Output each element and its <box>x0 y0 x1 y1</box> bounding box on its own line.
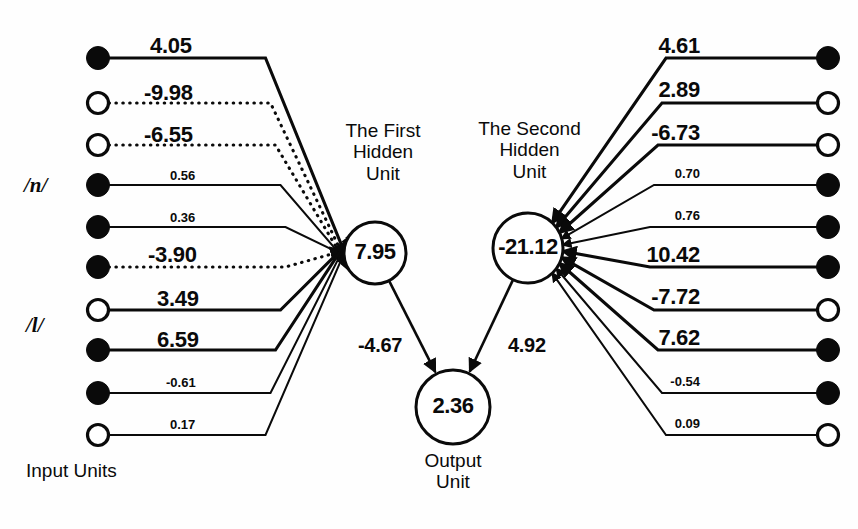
left-input-node-2[interactable] <box>88 135 109 156</box>
right-weight-label-3: 0.70 <box>590 166 700 181</box>
left-connection-6 <box>109 245 346 310</box>
first-hidden-unit-caption: The First Hidden Unit <box>327 120 439 184</box>
right-node-group <box>817 47 840 446</box>
second-hidden-to-output-edge <box>470 280 513 372</box>
right-input-node-3[interactable] <box>817 174 840 197</box>
left-connection-3 <box>109 185 346 261</box>
left-connection-2 <box>109 145 347 266</box>
left-connection-5 <box>109 250 345 267</box>
right-weight-label-6: -7.72 <box>590 284 700 310</box>
left-weight-label-6: 3.49 <box>157 286 199 312</box>
right-weight-label-9: 0.09 <box>590 416 700 431</box>
left-input-node-5[interactable] <box>87 256 110 279</box>
right-input-node-2[interactable] <box>818 135 839 156</box>
second-hidden-caption-line2: Hidden <box>462 139 597 160</box>
right-weight-label-5: 10.42 <box>590 242 700 268</box>
left-input-node-8[interactable] <box>87 382 110 405</box>
input-units-caption: Input Units <box>26 460 117 482</box>
right-weight-label-0: 4.61 <box>590 33 700 59</box>
left-weight-label-8: -0.61 <box>166 375 196 390</box>
right-weight-label-1: 2.89 <box>590 77 700 103</box>
left-weight-label-0: 4.05 <box>150 33 192 59</box>
left-weight-label-7: 6.59 <box>157 327 199 353</box>
right-input-node-9[interactable] <box>818 425 839 446</box>
phoneme-label-l: /l/ <box>26 313 44 338</box>
left-weight-label-3: 0.56 <box>170 168 195 183</box>
left-input-node-3[interactable] <box>87 174 110 197</box>
network-diagram: 7.95 -21.12 2.36 The First Hidden Unit T… <box>0 0 858 529</box>
right-input-node-6[interactable] <box>818 300 839 321</box>
second-hidden-unit-value: -21.12 <box>468 234 588 260</box>
left-connection-7 <box>109 240 347 350</box>
first-hidden-caption-line3: Unit <box>327 163 439 184</box>
second-hidden-caption-line1: The Second <box>462 118 597 139</box>
left-weight-label-5: -3.90 <box>148 242 197 268</box>
output-unit-caption: Output Unit <box>396 450 510 493</box>
second-hidden-to-output-weight-label: 4.92 <box>508 334 546 357</box>
left-input-node-9[interactable] <box>88 425 109 446</box>
output-caption-line2: Unit <box>396 471 510 492</box>
left-weight-label-9: 0.17 <box>170 417 195 432</box>
right-input-node-1[interactable] <box>818 93 839 114</box>
first-hidden-caption-line2: Hidden <box>327 141 439 162</box>
right-weight-label-4: 0.76 <box>590 208 700 223</box>
right-weight-label-8: -0.54 <box>590 374 700 389</box>
right-input-node-4[interactable] <box>817 216 840 239</box>
phoneme-label-n: /n/ <box>24 173 47 198</box>
right-input-node-7[interactable] <box>817 339 840 362</box>
left-weight-label-1: -9.98 <box>144 80 193 106</box>
right-input-node-0[interactable] <box>817 47 840 70</box>
left-node-group <box>87 47 110 446</box>
output-unit-value: 2.36 <box>393 393 513 419</box>
left-input-node-0[interactable] <box>87 47 110 70</box>
left-input-node-1[interactable] <box>88 93 109 114</box>
hidden-to-output-edge-group <box>389 280 513 373</box>
right-weight-label-2: -6.73 <box>590 120 700 146</box>
first-hidden-to-output-edge <box>389 281 435 373</box>
left-input-node-4[interactable] <box>87 216 110 239</box>
second-hidden-caption-line3: Unit <box>462 161 597 182</box>
left-weight-label-2: -6.55 <box>144 122 193 148</box>
first-hidden-to-output-weight-label: -4.67 <box>358 334 402 357</box>
left-connection-4 <box>109 227 345 256</box>
output-caption-line1: Output <box>396 450 510 471</box>
second-hidden-unit-caption: The Second Hidden Unit <box>462 118 597 182</box>
first-hidden-caption-line1: The First <box>327 120 439 141</box>
right-weight-label-7: 7.62 <box>590 325 700 351</box>
first-hidden-unit-value: 7.95 <box>315 239 435 265</box>
left-input-node-7[interactable] <box>87 339 110 362</box>
right-input-node-5[interactable] <box>817 256 840 279</box>
left-input-node-6[interactable] <box>88 300 109 321</box>
left-weight-label-4: 0.36 <box>170 210 195 225</box>
right-input-node-8[interactable] <box>817 382 840 405</box>
